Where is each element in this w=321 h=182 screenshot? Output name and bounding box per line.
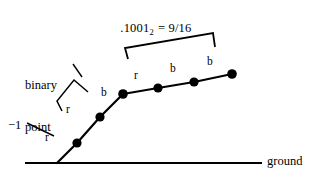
segment-label-b-first: b [101,86,107,98]
ground-label: ground [267,155,302,168]
segment-label-b-third: b [207,55,213,67]
binary-point-callout-line2: point [25,120,57,134]
segment-label-r-bracket: r [66,103,70,115]
path-node [189,77,198,86]
minus-one-label: −1 [8,119,21,132]
figure-canvas: .10012= 9/16 binary point −1 r r b r b b… [0,0,321,182]
path-node [72,138,81,147]
decimal-equivalent: = 9/16 [158,21,192,35]
binary-point-bracket [57,80,88,111]
path-node [95,112,104,121]
segment-label-r-second: r [134,69,138,81]
binary-point-leader-line [73,64,82,77]
binary-base-subscript: 2 [149,27,153,37]
segment-label-b-second: b [170,62,176,74]
value-label: .10012= 9/16 [107,9,192,50]
binary-point-callout-line1: binary [25,78,57,92]
path-node [227,69,237,79]
path-node [153,83,162,92]
segment-label-r-ground: r [45,131,49,143]
binary-fraction-value: .1001 [120,21,149,35]
path-node [118,89,128,99]
binary-point-callout: binary point [25,50,57,162]
